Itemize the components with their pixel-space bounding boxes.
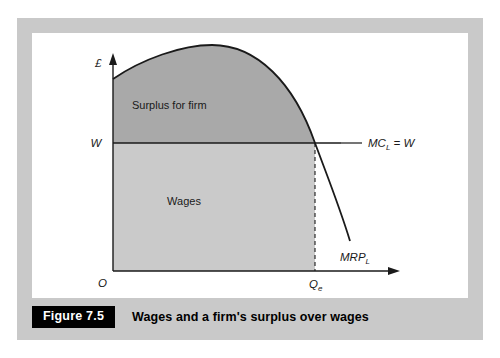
figure-frame: £ O W Qe Q of labour Surplus for firm Wa… xyxy=(17,18,483,340)
figure-caption-row: Figure 7.5 Wages and a firm's surplus ov… xyxy=(32,305,468,329)
mrp-curve-label: MRPL xyxy=(340,251,370,266)
figure-number-badge: Figure 7.5 xyxy=(32,306,115,328)
y-axis-label: £ xyxy=(94,57,102,69)
x-axis-arrowhead xyxy=(388,267,400,275)
surplus-region-label: Surplus for firm xyxy=(132,99,207,111)
figure-caption-text: Wages and a firm's surplus over wages xyxy=(132,310,369,324)
origin-label: O xyxy=(98,277,107,289)
mc-label-suffix: = W xyxy=(390,137,415,149)
qe-subscript: e xyxy=(318,284,323,293)
wage-axis-label: W xyxy=(91,137,103,149)
equilibrium-quantity-label: Qe xyxy=(309,278,323,293)
mc-curve-label: MCL = W xyxy=(368,137,415,152)
mrp-label-subscript: L xyxy=(366,257,370,266)
y-axis-arrowhead xyxy=(109,53,117,65)
surplus-region xyxy=(113,45,315,143)
mrp-label-main: MRP xyxy=(340,251,366,263)
chart-panel: £ O W Qe Q of labour Surplus for firm Wa… xyxy=(32,33,468,298)
economics-diagram: £ O W Qe Q of labour Surplus for firm Wa… xyxy=(32,33,468,298)
wages-region-label: Wages xyxy=(167,195,201,207)
qe-main: Q xyxy=(309,278,318,290)
wages-region xyxy=(113,143,315,271)
mc-label-main: MC xyxy=(368,137,387,149)
